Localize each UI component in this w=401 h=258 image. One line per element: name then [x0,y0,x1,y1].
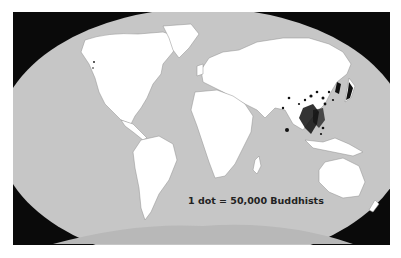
world-map [13,12,390,245]
map-frame: 1 dot = 50,000 Buddhists [13,12,390,245]
british-isles [197,64,203,76]
map-legend: 1 dot = 50,000 Buddhists [188,195,324,206]
